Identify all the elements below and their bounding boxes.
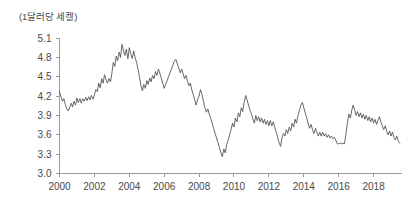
- x-axis-ticks: 2000200220042006200820102012201420162018: [48, 174, 385, 192]
- line-chart-plot: 3.03.33.63.94.24.54.85.1 200020022004200…: [0, 0, 419, 211]
- y-tick-label: 3.0: [38, 168, 52, 179]
- x-tick-label: 2008: [188, 181, 211, 192]
- chart-figure: (1달러당 세켈) 3.03.33.63.94.24.54.85.1 20002…: [0, 0, 419, 211]
- x-tick-label: 2002: [83, 181, 106, 192]
- x-tick-label: 2014: [293, 181, 316, 192]
- x-tick-label: 2004: [118, 181, 141, 192]
- x-tick-label: 2016: [328, 181, 351, 192]
- y-axis-ticks: 3.03.33.63.94.24.54.85.1: [38, 33, 60, 180]
- x-tick-label: 2006: [153, 181, 176, 192]
- y-tick-label: 3.3: [38, 149, 52, 160]
- y-tick-label: 4.2: [38, 91, 52, 102]
- axis-lines: [60, 38, 402, 174]
- x-tick-label: 2010: [223, 181, 246, 192]
- y-tick-label: 3.9: [38, 110, 52, 121]
- x-tick-label: 2012: [258, 181, 281, 192]
- x-tick-label: 2000: [48, 181, 71, 192]
- data-series-line: [60, 44, 400, 156]
- y-tick-label: 3.6: [38, 129, 52, 140]
- y-tick-label: 5.1: [38, 33, 52, 44]
- y-tick-label: 4.8: [38, 52, 52, 63]
- y-tick-label: 4.5: [38, 71, 52, 82]
- x-tick-label: 2018: [362, 181, 385, 192]
